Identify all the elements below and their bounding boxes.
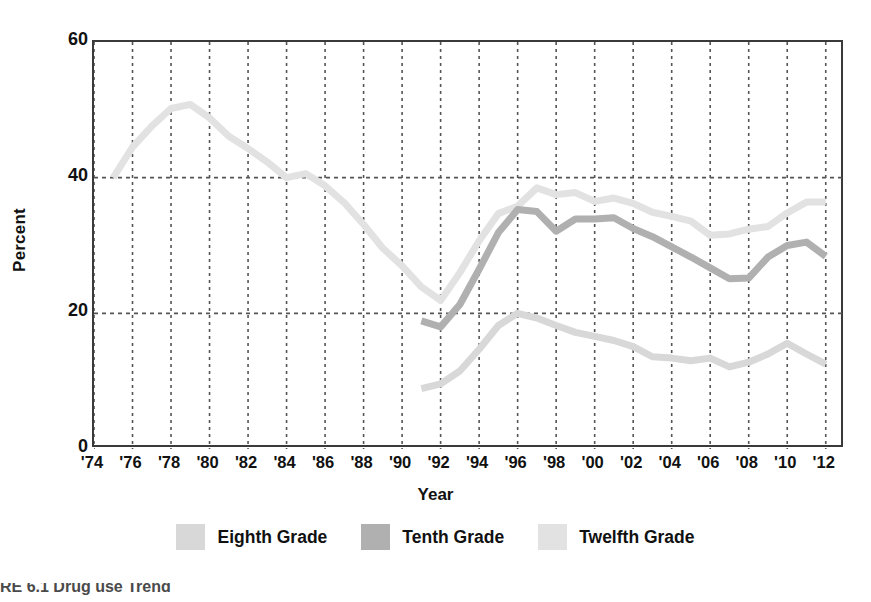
chart-canvas xyxy=(94,42,845,449)
legend-label: Eighth Grade xyxy=(217,527,327,548)
chart-legend: Eighth GradeTenth GradeTwelfth Grade xyxy=(0,524,871,550)
y-axis-title: Percent xyxy=(10,180,30,300)
y-tick-label: 20 xyxy=(44,301,88,319)
legend-label: Tenth Grade xyxy=(402,527,504,548)
legend-item-twelfth-grade[interactable]: Twelfth Grade xyxy=(538,524,694,550)
legend-swatch-icon xyxy=(176,524,205,550)
figure-caption: RE 6.1 Drug use Trend xyxy=(0,583,871,602)
vertical-gridlines xyxy=(94,42,826,449)
series-line-eighth-grade xyxy=(421,313,825,388)
legend-swatch-icon xyxy=(361,524,390,550)
legend-label: Twelfth Grade xyxy=(579,527,694,548)
plot-area xyxy=(92,40,843,447)
y-axis-tick-labels: 0204060 xyxy=(28,0,88,602)
figure-container: Percent 0204060 '74'76'78'80'82'84'86'88… xyxy=(0,0,871,602)
legend-item-eighth-grade[interactable]: Eighth Grade xyxy=(176,524,327,550)
legend-swatch-icon xyxy=(538,524,567,550)
legend-item-tenth-grade[interactable]: Tenth Grade xyxy=(361,524,504,550)
x-axis-title: Year xyxy=(0,485,871,505)
y-tick-label: 60 xyxy=(44,30,88,48)
y-tick-label: 40 xyxy=(44,166,88,184)
x-axis-tick-labels: '74'76'78'80'82'84'86'88'90'92'94'96'98'… xyxy=(92,452,843,478)
x-tick-label: '12 xyxy=(801,452,847,473)
figure-caption-text: RE 6.1 Drug use Trend xyxy=(0,583,171,596)
series-lines xyxy=(113,104,825,388)
